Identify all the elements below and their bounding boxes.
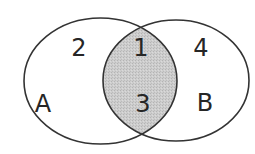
- set-a-label: A: [35, 90, 52, 118]
- region-intersection-top-label: 1: [133, 34, 148, 62]
- region-intersection-bottom-label: 3: [135, 90, 150, 118]
- region-b-only-label: 4: [193, 34, 208, 62]
- set-b-label: B: [197, 89, 213, 117]
- region-a-only-label: 2: [71, 34, 86, 62]
- venn-diagram: 2 1 3 4 A B: [0, 0, 255, 154]
